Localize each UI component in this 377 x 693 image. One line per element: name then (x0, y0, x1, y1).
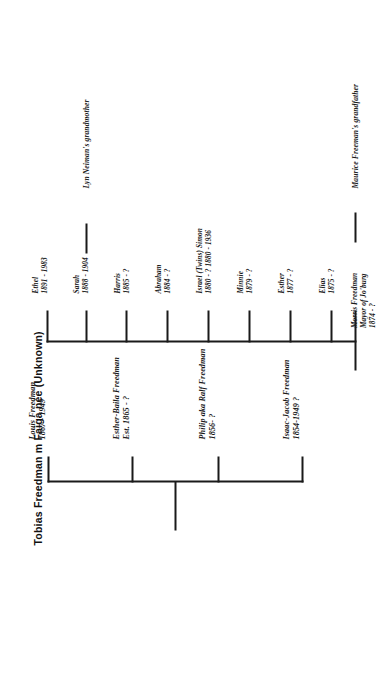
gen2-branch-arm (207, 310, 209, 342)
gen2-branch-arm (166, 310, 168, 342)
annotation-label: Lyn Neiman's grandmother (81, 99, 90, 188)
gen2-branch-arm (330, 310, 332, 342)
person-label-gen2: Morris Freedman Mayor of Jo'burg 1874 - … (350, 272, 377, 327)
gen1-parent-stem (174, 481, 176, 530)
gen2-branch-arm (248, 310, 250, 342)
gen1-branch-arm (47, 456, 49, 482)
annotation-leader-line (354, 212, 356, 242)
person-title: Mayor of Jo'burg (359, 272, 368, 327)
gen2-branch-arm (46, 310, 48, 342)
annotation-leader-line (85, 223, 87, 253)
annotation-label: Maurice Freeman's grandfather (350, 83, 359, 188)
gen1-branch-arm (217, 456, 219, 482)
gen1-branch-arm (301, 456, 303, 482)
person-dates: 1874 - ? (368, 272, 377, 327)
gen2-bracket-spine (46, 340, 356, 342)
gen2-branch-arm (289, 310, 291, 342)
family-tree-canvas: Tobias Freedman m Faiga née (Unknown) Lo… (0, 0, 377, 693)
gen1-branch-arm (131, 456, 133, 482)
gen2-branch-arm (125, 310, 127, 342)
gen2-branch-arm (85, 310, 87, 342)
